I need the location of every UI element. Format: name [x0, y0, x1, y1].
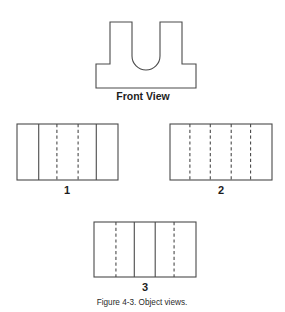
front-view-outline	[96, 22, 196, 88]
figure-object-views: Front View 1 2 3 Figure 4-3. Object view…	[0, 0, 285, 312]
option-1-outline[interactable]	[17, 124, 118, 180]
option-2-number: 2	[218, 184, 224, 196]
option-2-outline[interactable]	[170, 124, 272, 180]
option-3-outline[interactable]	[94, 222, 196, 277]
option-1-number: 1	[64, 184, 70, 196]
figure-caption: Figure 4-3. Object views.	[97, 298, 188, 307]
option-2-group[interactable]	[170, 124, 272, 180]
front-view-group	[96, 22, 196, 88]
figure-drawing-canvas: Front View 1 2 3 Figure 4-3. Object view…	[0, 0, 285, 312]
option-1-group[interactable]	[17, 124, 118, 180]
option-3-group[interactable]	[94, 222, 196, 277]
option-3-number: 3	[142, 281, 148, 293]
front-view-label: Front View	[116, 90, 170, 102]
